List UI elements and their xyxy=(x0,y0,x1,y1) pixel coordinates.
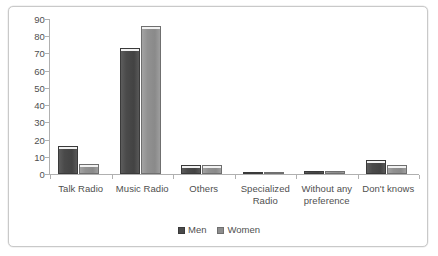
x-axis-category-label: Without anypreference xyxy=(296,183,358,206)
bar-women[interactable] xyxy=(264,172,284,174)
legend-item-men[interactable]: Men xyxy=(178,225,206,235)
y-axis-tick-label: 30 xyxy=(19,118,45,127)
y-axis-tick-label: 70 xyxy=(19,49,45,58)
bar-men[interactable] xyxy=(366,160,386,174)
bar-men[interactable] xyxy=(181,165,201,174)
x-axis-category-line: Don't knows xyxy=(358,183,420,195)
x-axis-tick-mark xyxy=(173,175,174,179)
x-axis-category-line: Specialized xyxy=(235,183,297,195)
bar-group xyxy=(112,19,174,174)
y-axis-tick-mark xyxy=(45,105,49,106)
chart-legend: MenWomen xyxy=(9,225,429,235)
plot-area: 9080706050403020100 Talk RadioMusic Radi… xyxy=(9,7,429,248)
y-axis-tick-label: 40 xyxy=(19,101,45,110)
bar-women[interactable] xyxy=(79,164,99,174)
bar-group xyxy=(235,19,297,174)
x-axis-tick-mark xyxy=(419,175,420,179)
bar-group xyxy=(173,19,235,174)
bar-highlight xyxy=(121,49,139,51)
y-axis-tick-label: 20 xyxy=(19,135,45,144)
legend-swatch-icon xyxy=(178,227,185,234)
legend-swatch-icon xyxy=(217,227,224,234)
chart-container: 9080706050403020100 Talk RadioMusic Radi… xyxy=(8,6,428,247)
bar-highlight xyxy=(80,165,98,167)
x-axis-category-line: Radio xyxy=(235,195,297,207)
bar-group xyxy=(296,19,358,174)
bar-highlight xyxy=(142,27,160,29)
y-axis: 9080706050403020100 xyxy=(19,19,45,173)
y-axis-tick-mark xyxy=(45,36,49,37)
x-axis-category-line: Music Radio xyxy=(112,183,174,195)
bar-women[interactable] xyxy=(141,26,161,174)
y-axis-tick-mark xyxy=(45,53,49,54)
y-axis-tick-label: 50 xyxy=(19,83,45,92)
y-axis-tick-label: 10 xyxy=(19,152,45,161)
y-axis-tick-mark xyxy=(45,88,49,89)
x-axis-category-line: preference xyxy=(296,195,358,207)
x-axis-tick-mark xyxy=(112,175,113,179)
x-axis-category-line: Talk Radio xyxy=(50,183,112,195)
bar-highlight xyxy=(182,166,200,168)
bar-men[interactable] xyxy=(58,146,78,174)
y-axis-tick-label: 90 xyxy=(19,15,45,24)
bar-men[interactable] xyxy=(243,172,263,174)
x-axis: Talk RadioMusic RadioOthersSpecializedRa… xyxy=(50,183,419,213)
y-axis-tick-mark xyxy=(45,71,49,72)
bar-men[interactable] xyxy=(304,171,324,174)
y-axis-tick-mark xyxy=(45,157,49,158)
legend-item-women[interactable]: Women xyxy=(217,225,260,235)
x-axis-category-label: Talk Radio xyxy=(50,183,112,195)
bar-women[interactable] xyxy=(387,165,407,174)
x-axis-category-line: Without any xyxy=(296,183,358,195)
x-axis-category-label: Others xyxy=(173,183,235,195)
legend-label: Men xyxy=(188,225,206,235)
x-axis-category-line: Others xyxy=(173,183,235,195)
y-axis-tick-mark xyxy=(45,174,49,175)
y-axis-tick-label: 80 xyxy=(19,32,45,41)
bar-women[interactable] xyxy=(325,171,345,174)
x-axis-tick-mark xyxy=(235,175,236,179)
y-axis-tick-label: 60 xyxy=(19,66,45,75)
x-axis-category-label: Don't knows xyxy=(358,183,420,195)
bar-women[interactable] xyxy=(202,165,222,174)
bar-highlight xyxy=(59,147,77,149)
y-axis-tick-mark xyxy=(45,140,49,141)
bar-highlight xyxy=(203,166,221,168)
bars-area xyxy=(50,19,419,174)
y-axis-tick-mark xyxy=(45,19,49,20)
bar-group xyxy=(358,19,420,174)
x-axis-category-label: Music Radio xyxy=(112,183,174,195)
x-axis-category-label: SpecializedRadio xyxy=(235,183,297,206)
y-axis-tick-mark xyxy=(45,122,49,123)
y-axis-tick-label: 0 xyxy=(19,170,45,179)
x-axis-tick-mark xyxy=(50,175,51,179)
x-axis-tick-mark xyxy=(296,175,297,179)
bar-highlight xyxy=(388,166,406,168)
x-axis-tick-mark xyxy=(358,175,359,179)
bar-men[interactable] xyxy=(120,48,140,174)
legend-label: Women xyxy=(227,225,260,235)
bar-group xyxy=(50,19,112,174)
bar-highlight xyxy=(367,161,385,163)
